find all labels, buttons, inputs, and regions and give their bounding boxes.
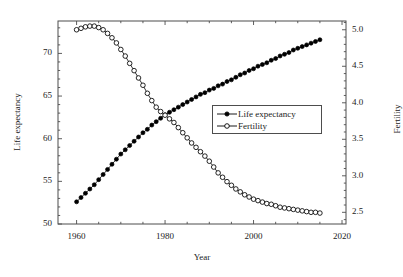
y-tick-label-left: 70	[26, 47, 52, 57]
y-tick-label-right: 4.0	[352, 97, 382, 107]
y-axis-right-title: Fertility	[392, 64, 402, 174]
legend-item-life-expectancy: Life expectancy	[216, 108, 318, 120]
y-tick-label-right: 4.5	[352, 60, 382, 70]
figure: Life expectancy Fertility Year 505560657…	[0, 0, 403, 277]
legend-label-life-expectancy: Life expectancy	[238, 108, 296, 120]
legend-marker-open-circle-icon	[216, 120, 238, 132]
legend-item-fertility: Fertility	[216, 120, 318, 132]
chart-legend: Life expectancy Fertility	[212, 105, 322, 134]
y-tick-label-left: 55	[26, 175, 52, 185]
y-tick-label-left: 60	[26, 133, 52, 143]
y-tick-label-right: 3.5	[352, 133, 382, 143]
x-tick-label: 1980	[145, 231, 185, 241]
x-tick-label: 2020	[322, 231, 362, 241]
x-tick-label: 2000	[234, 231, 274, 241]
y-tick-label-left: 50	[26, 218, 52, 228]
x-axis-title: Year	[152, 252, 252, 262]
legend-marker-filled-circle-icon	[216, 108, 238, 120]
y-tick-label-left: 65	[26, 90, 52, 100]
legend-label-fertility: Fertility	[238, 120, 267, 132]
x-tick-label: 1960	[57, 231, 97, 241]
y-tick-label-right: 5.0	[352, 24, 382, 34]
y-tick-label-right: 3.0	[352, 170, 382, 180]
y-tick-label-right: 2.5	[352, 206, 382, 216]
y-axis-left-title: Life expectancy	[12, 67, 22, 177]
